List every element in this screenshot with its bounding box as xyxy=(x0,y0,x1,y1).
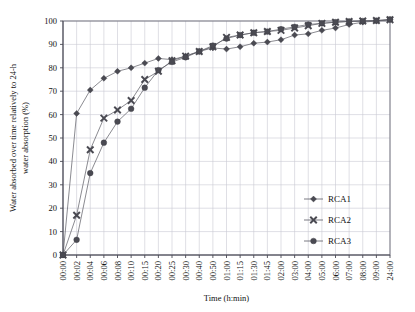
data-point-rca3 xyxy=(360,18,366,24)
x-axis-tick-label: 00:30 xyxy=(181,261,191,280)
data-point-rca3 xyxy=(237,32,243,38)
y-axis-tick-label: 40 xyxy=(49,156,58,166)
y-axis-title-line-1: Water absorbed over time relatively to 2… xyxy=(8,63,18,212)
legend-item-rca2[interactable]: RCA2 xyxy=(304,215,351,225)
x-axis-tick-label: 24:00 xyxy=(385,261,395,280)
data-point-rca3 xyxy=(251,30,257,36)
chart-container: 0102030405060708090100 00:0000:0200:0400… xyxy=(0,0,415,312)
y-axis-tick-label: 20 xyxy=(49,203,58,213)
data-point-rca3 xyxy=(224,36,230,42)
y-axis-tick-label: 30 xyxy=(49,180,58,190)
y-axis-tick-label: 0 xyxy=(53,250,57,260)
y-axis-tick-label: 70 xyxy=(49,86,58,96)
data-point-rca3 xyxy=(128,106,134,112)
data-point-rca3 xyxy=(115,119,121,125)
x-axis-tick-label: 01:00 xyxy=(222,261,232,280)
y-axis-tick-label: 100 xyxy=(44,16,57,26)
x-axis-tick-label: 01:30 xyxy=(249,261,259,280)
x-axis-tick-label: 03:00 xyxy=(290,261,300,280)
data-point-rca3 xyxy=(346,19,352,25)
data-point-rca3 xyxy=(74,237,80,243)
x-axis-tick-label: 00:02 xyxy=(72,261,82,280)
x-axis-tick-label: 00:08 xyxy=(113,261,123,280)
data-point-rca3 xyxy=(183,54,189,60)
data-point-rca3 xyxy=(292,24,298,30)
data-point-rca3 xyxy=(210,43,216,49)
data-point-rca3 xyxy=(305,22,311,28)
x-axis-tick-label: 07:00 xyxy=(344,261,354,280)
x-axis-tick-label: 00:06 xyxy=(99,261,109,280)
x-axis-tick-label: 00:10 xyxy=(126,261,136,280)
y-axis-tick-label: 80 xyxy=(49,63,58,73)
data-point-rca3 xyxy=(265,29,271,35)
data-point-rca3 xyxy=(319,20,325,26)
y-axis-title-line-2: water absorption (%) xyxy=(20,102,30,174)
data-point-rca3 xyxy=(142,85,148,91)
data-point-rca3 xyxy=(387,17,393,23)
x-axis-tick-label: 00:15 xyxy=(140,261,150,280)
legend-label-rca3: RCA3 xyxy=(328,236,352,246)
x-axis-tick-label: 06:00 xyxy=(331,261,341,280)
water-absorption-line-chart: 0102030405060708090100 00:0000:0200:0400… xyxy=(0,0,415,312)
x-axis-tick-label: 01:15 xyxy=(235,261,245,280)
x-axis-tick-label: 00:04 xyxy=(85,260,95,280)
data-point-rca3 xyxy=(60,252,66,258)
data-point-rca3 xyxy=(87,170,93,176)
data-point-rca3 xyxy=(333,19,339,25)
x-axis-tick-label: 05:00 xyxy=(317,261,327,280)
x-axis-tick-label: 08:00 xyxy=(358,261,368,280)
y-axis-tick-label: 10 xyxy=(49,227,58,237)
x-axis-tick-label: 09:00 xyxy=(371,261,381,280)
x-axis-tick-label: 02:00 xyxy=(276,261,286,280)
data-point-rca3 xyxy=(101,140,107,146)
x-axis-tick-label: 04:00 xyxy=(303,261,313,280)
legend-marker-rca3 xyxy=(311,238,317,244)
x-axis-tick-label: 00:50 xyxy=(208,261,218,280)
legend-label-rca1: RCA1 xyxy=(328,194,351,204)
legend-label-rca2: RCA2 xyxy=(328,215,351,225)
data-point-rca3 xyxy=(374,18,380,24)
y-axis-tick-label: 60 xyxy=(49,110,58,120)
y-axis-tick-label: 50 xyxy=(49,133,58,143)
x-axis-tick-label: 00:40 xyxy=(194,261,204,280)
x-axis-tick-label: 00:25 xyxy=(167,261,177,280)
x-axis-title: Time (h:min) xyxy=(204,293,249,303)
data-point-rca3 xyxy=(169,59,175,65)
data-point-rca3 xyxy=(278,26,284,32)
x-axis-tick-label: 00:00 xyxy=(58,261,68,280)
x-axis-tick-label: 01:45 xyxy=(262,261,272,280)
data-point-rca3 xyxy=(156,67,162,73)
data-point-rca3 xyxy=(196,49,202,55)
x-axis-tick-label: 00:20 xyxy=(153,261,163,280)
y-axis-tick-label: 90 xyxy=(49,39,58,49)
